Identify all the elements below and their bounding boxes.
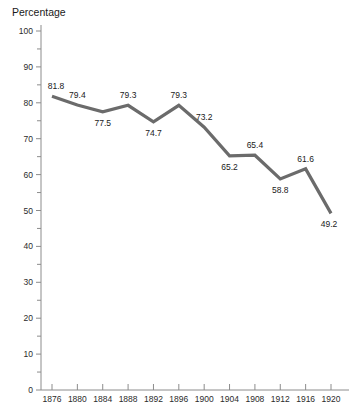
line-chart: Percentage 10090807060504030201001876188… <box>0 0 355 416</box>
x-tick-label: 1896 <box>169 394 188 404</box>
data-point-label: 79.3 <box>120 90 137 100</box>
x-tick-label: 1884 <box>93 394 112 404</box>
data-series-line <box>52 96 331 213</box>
y-tick-label: 60 <box>24 170 34 180</box>
data-point-label: 65.4 <box>247 140 264 150</box>
data-point-label: 73.2 <box>196 112 213 122</box>
x-tick-label: 1904 <box>220 394 239 404</box>
x-tick-label: 1912 <box>271 394 290 404</box>
data-point-label: 65.2 <box>221 162 238 172</box>
y-tick-label: 40 <box>24 241 34 251</box>
data-point-label: 58.8 <box>272 185 289 195</box>
y-tick-label: 50 <box>24 206 34 216</box>
x-tick-label: 1888 <box>119 394 138 404</box>
y-tick-label: 70 <box>24 134 34 144</box>
x-tick-label: 1916 <box>296 394 315 404</box>
x-tick-label: 1908 <box>245 394 264 404</box>
chart-canvas: 1009080706050403020100187618801884188818… <box>0 0 355 416</box>
y-tick-label: 10 <box>24 349 34 359</box>
data-point-label: 79.3 <box>171 90 188 100</box>
y-tick-label: 30 <box>24 277 34 287</box>
data-point-label: 49.2 <box>321 219 338 229</box>
x-tick-label: 1920 <box>322 394 341 404</box>
data-point-label: 61.6 <box>297 154 314 164</box>
x-tick-label: 1876 <box>43 394 62 404</box>
x-tick-label: 1892 <box>144 394 163 404</box>
y-tick-label: 100 <box>19 26 33 36</box>
y-tick-label: 80 <box>24 98 34 108</box>
data-point-label: 81.8 <box>48 81 65 91</box>
x-tick-label: 1900 <box>195 394 214 404</box>
y-tick-label: 20 <box>24 313 34 323</box>
x-tick-label: 1880 <box>68 394 87 404</box>
data-point-label: 77.5 <box>94 118 111 128</box>
data-point-label: 79.4 <box>69 90 86 100</box>
y-tick-label: 0 <box>28 385 33 395</box>
data-point-label: 74.7 <box>145 128 162 138</box>
y-tick-label: 90 <box>24 62 34 72</box>
